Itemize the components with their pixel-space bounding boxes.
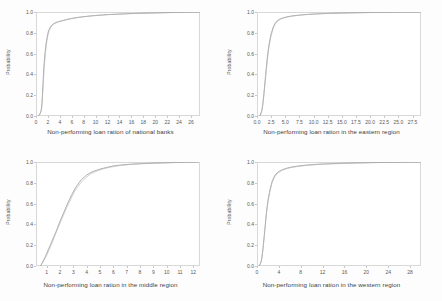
curve-fitted-cdf <box>38 12 200 116</box>
chart-panel-eastern-region: Probability 0.00.20.40.60.81.0 0.02.55.0… <box>221 0 442 150</box>
y-tick-label: 0.8 <box>26 180 33 186</box>
curve-fitted-cdf <box>259 162 421 266</box>
figure-cdf-grid: Probability 0.00.20.40.60.81.0 024681012… <box>0 0 442 301</box>
x-tick-label: 16 <box>342 269 348 275</box>
y-tick-label: 0.8 <box>247 30 254 36</box>
x-tick-label: 14 <box>117 119 123 125</box>
x-tick-mark <box>257 116 258 118</box>
x-tick-label: 6 <box>112 269 115 275</box>
y-tick-mark <box>34 74 36 75</box>
x-tick-mark <box>328 116 329 118</box>
x-tick-mark <box>108 116 109 118</box>
x-tick-label: 4 <box>277 269 280 275</box>
y-tick-label: 0.8 <box>26 30 33 36</box>
x-tick-label: 25.0 <box>394 119 404 125</box>
x-axis-title-0: Non-performing loan ration of national b… <box>0 128 221 135</box>
y-tick-mark <box>255 224 257 225</box>
plot-area-3: Probability 0.00.20.40.60.81.0 048121620… <box>257 162 421 266</box>
x-tick-mark <box>191 116 192 118</box>
y-tick-mark <box>34 33 36 34</box>
y-tick-label: 0.6 <box>247 51 254 57</box>
plot-area-1: Probability 0.00.20.40.60.81.0 0.02.55.0… <box>257 12 421 116</box>
y-tick-label: 0.4 <box>247 221 254 227</box>
y-tick-label: 0.2 <box>247 92 254 98</box>
x-tick-label: 7 <box>125 269 128 275</box>
x-tick-label: 2.5 <box>268 119 275 125</box>
y-tick-label: 0.0 <box>26 113 33 119</box>
y-tick-label: 1.0 <box>26 9 33 15</box>
chart-panel-middle-region: Probability 0.00.20.40.60.81.0 123456789… <box>0 150 221 300</box>
x-tick-mark <box>72 116 73 118</box>
x-tick-label: 4 <box>58 119 61 125</box>
y-tick-mark <box>34 183 36 184</box>
chart-panel-national-banks: Probability 0.00.20.40.60.81.0 024681012… <box>0 0 221 150</box>
y-tick-mark <box>255 12 257 13</box>
y-tick-mark <box>34 95 36 96</box>
y-tick-mark <box>255 204 257 205</box>
y-tick-mark <box>34 12 36 13</box>
y-tick-label: 1.0 <box>247 159 254 165</box>
y-tick-label: 0.6 <box>26 201 33 207</box>
x-tick-label: 12 <box>320 269 326 275</box>
x-tick-mark <box>87 266 88 268</box>
x-tick-label: 2 <box>59 269 62 275</box>
curve-svg-0 <box>36 12 200 116</box>
x-tick-label: 4 <box>85 269 88 275</box>
y-tick-mark <box>34 224 36 225</box>
x-tick-label: 28 <box>407 269 413 275</box>
curve-empirical-cdf <box>41 162 199 266</box>
x-tick-mark <box>413 116 414 118</box>
x-tick-mark <box>299 116 300 118</box>
y-axis-title-2: Probability <box>5 172 11 252</box>
y-axis-title-0: Probability <box>5 22 11 102</box>
y-tick-label: 0.6 <box>247 201 254 207</box>
x-tick-label: 12.5 <box>323 119 333 125</box>
y-tick-label: 0.6 <box>26 51 33 57</box>
x-tick-mark <box>323 266 324 268</box>
y-tick-mark <box>255 183 257 184</box>
y-tick-label: 0.4 <box>26 221 33 227</box>
y-tick-label: 0.2 <box>26 242 33 248</box>
x-tick-label: 5 <box>99 269 102 275</box>
x-tick-mark <box>131 116 132 118</box>
x-tick-label: 8 <box>82 119 85 125</box>
x-tick-mark <box>384 116 385 118</box>
y-axis-title-3: Probability <box>226 172 232 252</box>
y-tick-mark <box>255 95 257 96</box>
x-tick-mark <box>370 116 371 118</box>
x-axis-title-1: Non-performing loan ration in the easter… <box>221 128 442 135</box>
x-tick-label: 12 <box>105 119 111 125</box>
x-tick-mark <box>47 266 48 268</box>
curve-svg-1 <box>257 12 421 116</box>
x-tick-label: 8 <box>299 269 302 275</box>
x-tick-mark <box>193 266 194 268</box>
x-tick-mark <box>143 116 144 118</box>
x-tick-label: 20 <box>152 119 158 125</box>
x-tick-mark <box>84 116 85 118</box>
x-tick-mark <box>48 116 49 118</box>
x-tick-mark <box>271 116 272 118</box>
y-axis-title-1: Probability <box>226 22 232 102</box>
x-tick-mark <box>155 116 156 118</box>
y-tick-label: 1.0 <box>247 9 254 15</box>
x-tick-label: 20.0 <box>365 119 375 125</box>
x-tick-mark <box>279 266 280 268</box>
curve-empirical-cdf <box>260 12 421 116</box>
x-tick-label: 3 <box>72 269 75 275</box>
plot-area-2: Probability 0.00.20.40.60.81.0 123456789… <box>36 162 200 266</box>
x-tick-label: 1 <box>45 269 48 275</box>
plot-area-0: Probability 0.00.20.40.60.81.0 024681012… <box>36 12 200 116</box>
x-tick-label: 24 <box>385 269 391 275</box>
y-tick-label: 0.0 <box>26 263 33 269</box>
y-tick-label: 0.4 <box>26 71 33 77</box>
y-tick-mark <box>255 162 257 163</box>
x-tick-label: 24 <box>176 119 182 125</box>
chart-panel-western-region: Probability 0.00.20.40.60.81.0 048121620… <box>221 150 442 300</box>
y-tick-mark <box>34 266 36 267</box>
x-tick-label: 17.5 <box>351 119 361 125</box>
x-tick-mark <box>73 266 74 268</box>
y-tick-mark <box>255 33 257 34</box>
x-tick-label: 10 <box>93 119 99 125</box>
x-tick-mark <box>167 266 168 268</box>
x-tick-label: 27.5 <box>408 119 418 125</box>
